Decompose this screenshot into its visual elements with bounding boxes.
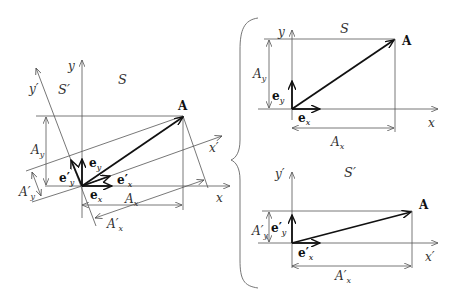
- ex-label: ex: [298, 111, 311, 127]
- Ay-prime-label: A′y: [18, 185, 35, 201]
- Ax-prime-label: A′x: [334, 269, 351, 285]
- left-panel: y y′ S′ S A x′ x Ay A′y Ax A′x ey e′y e′…: [18, 59, 230, 233]
- x-prime-axis-label: x′: [425, 250, 435, 264]
- x-axis-label: x: [216, 191, 223, 205]
- ex-label: ex: [90, 188, 103, 204]
- vector-A: [292, 40, 394, 109]
- ex-prime-label: e′x: [298, 246, 314, 262]
- x-prime-axis-label: x′: [209, 141, 219, 155]
- y-axis-label: y: [277, 25, 285, 39]
- frame-S-label: S: [340, 21, 349, 36]
- Ax-prime-label: A′x: [106, 217, 123, 233]
- frame-S-prime-label: S′: [58, 82, 70, 97]
- Ax-label: Ax: [124, 192, 139, 208]
- Ax-label: Ax: [330, 135, 345, 151]
- vector-A: [82, 117, 183, 186]
- y-prime-axis-label: y′: [28, 82, 39, 96]
- projection-line-prime: [32, 186, 82, 202]
- right-top-panel: y S A x Ay Ax ey ex: [252, 21, 438, 151]
- ey-label: ey: [272, 89, 285, 105]
- frame-S-label: S: [118, 72, 127, 87]
- frame-S-prime-label: S′: [344, 165, 356, 180]
- ey-prime-label: e′y: [271, 221, 287, 237]
- vector-A-label: A: [401, 34, 412, 48]
- ey-label: ey: [89, 156, 102, 172]
- projection-line-prime: [183, 116, 208, 188]
- projection-line-prime: [26, 116, 183, 171]
- right-bottom-panel: y′ S′ A x′ A′y A′x e′y e′x: [251, 165, 438, 285]
- x-axis-label: x: [428, 116, 435, 130]
- ex-prime-label: e′x: [117, 173, 133, 189]
- vector-A: [292, 212, 411, 243]
- Ay-label: Ay: [252, 67, 267, 83]
- vector-components-diagram: y y′ S′ S A x′ x Ay A′y Ax A′x ey e′y e′…: [0, 0, 456, 304]
- Ay-label: Ay: [30, 143, 45, 159]
- Ay-prime-label: A′y: [251, 224, 268, 240]
- ey-prime-label: e′y: [59, 171, 75, 187]
- vector-A-label: A: [418, 198, 429, 212]
- y-axis-label: y: [67, 59, 75, 73]
- vector-A-label: A: [177, 99, 188, 113]
- y-prime-axis-label: y′: [274, 167, 285, 181]
- curly-brace: [231, 18, 258, 288]
